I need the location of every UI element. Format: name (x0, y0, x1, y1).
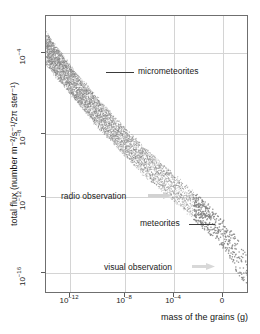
meteorites-leader-line (189, 224, 215, 225)
y-axis-title: total flux (number m⁻²/s⁻¹/2π ster⁻¹) (9, 82, 19, 226)
radio-observation-arrow-icon (148, 192, 172, 199)
y-tick-label: 10−16 (18, 267, 27, 286)
annotation-visual-observation: visual observation (104, 262, 172, 272)
stipple-band (46, 16, 248, 293)
y-tick-mark (41, 272, 45, 273)
x-tick-label: 10−4 (165, 296, 181, 305)
annotation-micrometeorites: micrometeorites (138, 66, 198, 76)
x-tick-label: 0 (220, 296, 224, 305)
annotation-meteorites: meteorites (140, 218, 180, 228)
x-tick-label: 10−8 (116, 296, 132, 305)
visual-observation-arrow-icon (192, 263, 215, 270)
x-axis-title: mass of the grains (g) (161, 312, 248, 322)
y-tick-label: 10−4 (18, 49, 27, 65)
micrometeorites-leader-line (106, 72, 134, 73)
flux-vs-mass-chart: micrometeorites radio observation meteor… (0, 0, 260, 334)
plot-area: micrometeorites radio observation meteor… (45, 15, 248, 293)
annotation-radio-observation: radio observation (61, 191, 126, 201)
y-tick-mark (41, 133, 45, 134)
y-tick-mark (41, 52, 45, 53)
x-tick-label: 10−12 (59, 296, 78, 305)
y-tick-mark (41, 196, 45, 197)
